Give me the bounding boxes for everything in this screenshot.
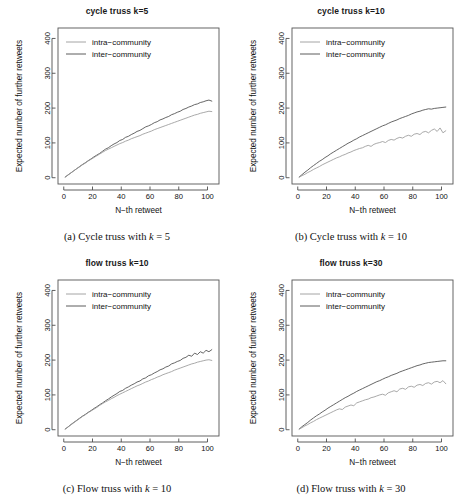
y-tick-label: 100	[278, 137, 287, 150]
caption-variable: k	[379, 483, 384, 494]
x-tick-label: 100	[201, 192, 214, 201]
caption-variable: k	[381, 231, 386, 242]
x-tick-label: 60	[380, 192, 388, 201]
y-axis: 0100200300400	[44, 284, 56, 432]
chart-panel-b: cycle truss k=10010020030040002040608010…	[234, 0, 468, 252]
y-tick-label: 300	[278, 319, 287, 332]
series-line-intra-community	[299, 381, 446, 429]
series-line-inter-community	[299, 107, 446, 177]
series-group	[65, 100, 212, 177]
caption-value: = 10	[152, 483, 171, 494]
x-tick-label: 20	[88, 192, 96, 201]
legend-label-inter: inter−community	[326, 302, 385, 311]
x-tick-label: 20	[88, 444, 96, 453]
y-axis-label: Expected number of further retweets	[249, 40, 258, 172]
plot-area-a: 0100200300400020406080100N−th retweetExp…	[0, 0, 234, 252]
y-axis-label: Expected number of further retweets	[15, 292, 24, 424]
panel-caption-b: (b) Cycle truss with k = 10	[234, 231, 468, 242]
x-tick-label: 80	[175, 192, 183, 201]
y-tick-label: 100	[278, 389, 287, 402]
y-tick-label: 400	[278, 284, 287, 297]
caption-value: = 5	[156, 231, 170, 242]
x-axis-label: N−th retweet	[349, 458, 396, 467]
series-group	[299, 361, 446, 429]
legend: intra−communityinter−community	[300, 38, 385, 59]
y-tick-label: 400	[44, 284, 53, 297]
series-group	[65, 350, 212, 429]
y-axis: 0100200300400	[44, 32, 56, 180]
x-tick-label: 100	[435, 444, 448, 453]
x-tick-label: 20	[322, 192, 330, 201]
x-axis: 020406080100	[296, 187, 448, 202]
series-line-inter-community	[65, 350, 212, 429]
series-line-intra-community	[65, 111, 212, 177]
x-tick-label: 80	[409, 192, 417, 201]
x-tick-label: 100	[435, 192, 448, 201]
legend-label-inter: inter−community	[92, 50, 151, 59]
series-line-inter-community	[299, 361, 446, 429]
y-tick-label: 400	[278, 32, 287, 45]
plot-area-d: 0100200300400020406080100N−th retweetExp…	[234, 252, 468, 504]
y-tick-label: 0	[44, 428, 53, 432]
legend-label-intra: intra−community	[326, 38, 385, 47]
y-tick-label: 0	[278, 176, 287, 180]
chart-panel-d: flow truss k=300100200300400020406080100…	[234, 252, 468, 504]
panel-caption-d: (d) Flow truss with k = 30	[234, 483, 468, 494]
y-tick-label: 400	[44, 32, 53, 45]
caption-variable: k	[149, 231, 154, 242]
series-line-intra-community	[299, 128, 446, 177]
legend-label-intra: intra−community	[326, 290, 385, 299]
x-tick-label: 60	[146, 444, 154, 453]
x-tick-label: 60	[380, 444, 388, 453]
caption-value: = 30	[387, 483, 406, 494]
legend-label-inter: inter−community	[92, 302, 151, 311]
x-tick-label: 20	[322, 444, 330, 453]
y-tick-label: 100	[44, 137, 53, 150]
plot-area-b: 0100200300400020406080100N−th retweetExp…	[234, 0, 468, 252]
x-axis-label: N−th retweet	[349, 206, 396, 215]
y-axis: 0100200300400	[278, 284, 290, 432]
legend: intra−communityinter−community	[66, 290, 151, 311]
y-tick-label: 0	[44, 176, 53, 180]
y-tick-label: 200	[44, 354, 53, 367]
legend-label-intra: intra−community	[92, 38, 151, 47]
series-line-inter-community	[65, 100, 212, 177]
x-tick-label: 0	[62, 444, 66, 453]
figure-panel-grid: cycle truss k=50100200300400020406080100…	[0, 0, 468, 504]
caption-prefix: (c) Flow truss with	[63, 483, 143, 494]
x-axis-label: N−th retweet	[115, 206, 162, 215]
x-axis: 020406080100	[62, 439, 214, 454]
panel-caption-c: (c) Flow truss with k = 10	[0, 483, 234, 494]
y-tick-label: 200	[278, 354, 287, 367]
legend-label-inter: inter−community	[326, 50, 385, 59]
y-tick-label: 100	[44, 389, 53, 402]
caption-value: = 10	[388, 231, 407, 242]
x-axis-label: N−th retweet	[115, 458, 162, 467]
y-tick-label: 300	[278, 67, 287, 80]
y-tick-label: 200	[278, 102, 287, 115]
chart-panel-c: flow truss k=100100200300400020406080100…	[0, 252, 234, 504]
series-group	[299, 107, 446, 177]
x-tick-label: 100	[201, 444, 214, 453]
x-tick-label: 0	[296, 444, 300, 453]
y-axis-label: Expected number of further retweets	[15, 40, 24, 172]
legend: intra−communityinter−community	[300, 290, 385, 311]
y-tick-label: 0	[278, 428, 287, 432]
y-tick-label: 300	[44, 319, 53, 332]
x-tick-label: 80	[409, 444, 417, 453]
x-tick-label: 40	[351, 444, 359, 453]
y-tick-label: 200	[44, 102, 53, 115]
y-axis-label: Expected number of further retweets	[249, 292, 258, 424]
x-tick-label: 0	[62, 192, 66, 201]
chart-panel-a: cycle truss k=50100200300400020406080100…	[0, 0, 234, 252]
x-tick-label: 40	[117, 192, 125, 201]
caption-prefix: (b) Cycle truss with	[295, 231, 378, 242]
plot-area-c: 0100200300400020406080100N−th retweetExp…	[0, 252, 234, 504]
caption-prefix: (a) Cycle truss with	[64, 231, 147, 242]
x-axis: 020406080100	[296, 439, 448, 454]
y-axis: 0100200300400	[278, 32, 290, 180]
x-tick-label: 40	[117, 444, 125, 453]
series-line-intra-community	[65, 360, 212, 429]
x-tick-label: 60	[146, 192, 154, 201]
x-axis: 020406080100	[62, 187, 214, 202]
